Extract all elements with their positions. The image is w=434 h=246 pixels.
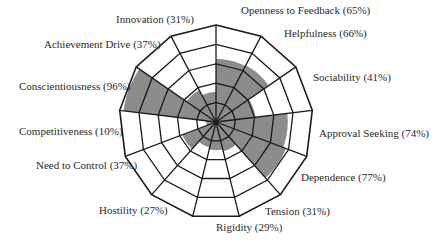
radar-chart	[0, 0, 434, 246]
label-dependence: Dependence (77%)	[301, 171, 386, 183]
label-competitiveness: Competitiveness (10%)	[19, 125, 123, 137]
label-openness: Openness to Feedback (65%)	[241, 4, 370, 16]
label-conscientiousness: Conscientiousness (96%)	[19, 80, 131, 92]
label-achievement-drive: Achievement Drive (37%)	[44, 38, 161, 50]
grid-spoke	[152, 122, 216, 195]
label-approval-seeking: Approval Seeking (74%)	[319, 127, 429, 139]
value-fills	[124, 59, 288, 178]
label-sociability: Sociability (41%)	[313, 71, 391, 83]
label-rigidity: Rigidity (29%)	[216, 221, 282, 233]
label-need-to-control: Need to Control (37%)	[36, 159, 137, 171]
label-innovation: Innovation (31%)	[116, 13, 194, 25]
label-tension: Tension (31%)	[265, 205, 330, 217]
label-hostility: Hostility (27%)	[99, 204, 168, 216]
center-point	[214, 120, 218, 124]
label-helpfulness: Helpfulness (66%)	[284, 27, 367, 39]
